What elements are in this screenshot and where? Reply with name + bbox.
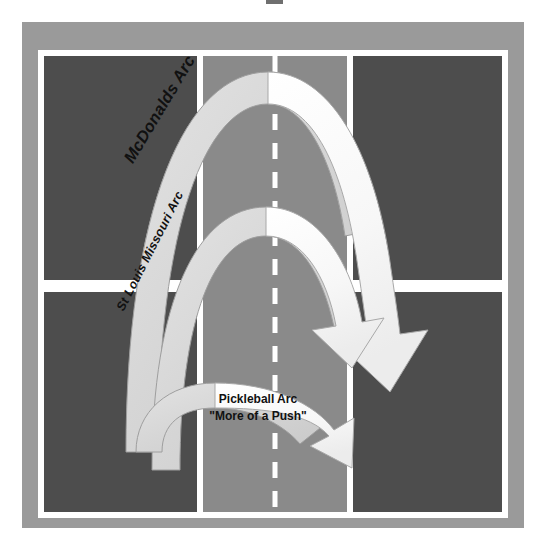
diagram-canvas: McDonalds Arc St Louis Missouri Arc Pick… <box>0 0 546 556</box>
pickleball-court-diagram <box>0 0 546 556</box>
